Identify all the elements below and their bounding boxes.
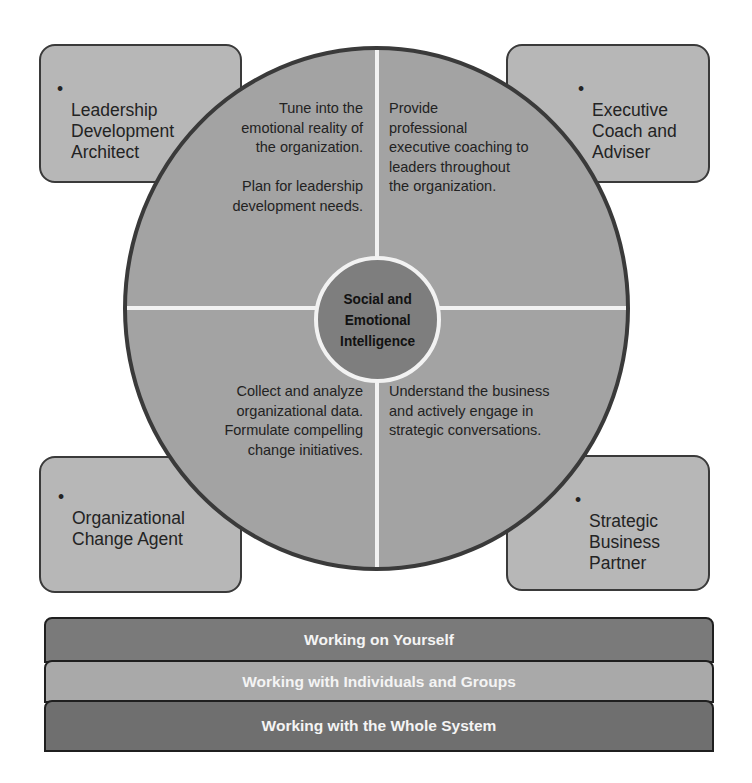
layer-working-on-yourself: Working on Yourself [44, 617, 714, 663]
layer-label: Working on Yourself [304, 631, 454, 649]
role-text: Executive Coach and Adviser [592, 100, 677, 162]
quadrant-text-top-right: Provide professional executive coaching … [389, 99, 528, 197]
hub-circle: Social and Emotional Intelligence [314, 256, 441, 383]
role-label-organizational-change-agent: •Organizational Change Agent [72, 487, 185, 550]
role-text: Strategic Business Partner [589, 511, 660, 573]
bullet-icon: • [578, 79, 584, 100]
bullet-icon: • [575, 490, 581, 511]
layer-label: Working with Individuals and Groups [242, 673, 516, 691]
quadrant-text-bottom-right: Understand the business and actively eng… [389, 382, 549, 441]
role-text: Leadership Development Architect [71, 100, 174, 162]
layer-working-with-individuals-and-groups: Working with Individuals and Groups [44, 660, 714, 703]
bullet-icon: • [58, 487, 64, 508]
role-text: Organizational Change Agent [72, 508, 185, 549]
role-label-executive-coach-and-adviser: •Executive Coach and Adviser [592, 79, 677, 163]
quadrant-text-bottom-left: Collect and analyze organizational data.… [224, 382, 363, 460]
role-label-leadership-development-architect: •Leadership Development Architect [71, 79, 174, 163]
role-label-strategic-business-partner: •Strategic Business Partner [589, 490, 660, 574]
quadrant-text-top-left: Tune into the emotional reality of the o… [232, 99, 363, 216]
layer-label: Working with the Whole System [262, 717, 497, 735]
layer-working-with-the-whole-system: Working with the Whole System [44, 700, 714, 752]
hub-label: Social and Emotional Intelligence [340, 288, 415, 351]
bullet-icon: • [57, 79, 63, 100]
